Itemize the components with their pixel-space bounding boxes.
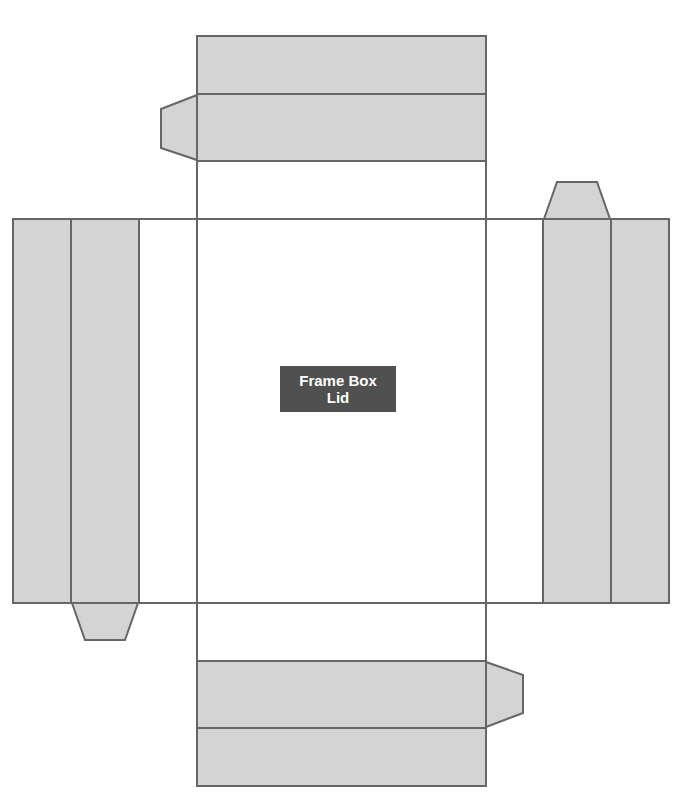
left-flap-outer [13,219,71,603]
right-flap-outer [611,219,669,603]
right-flap-tab [544,182,610,219]
bottom-flap-tab [486,662,523,727]
left-flap-tab [72,603,138,640]
top-flap-tab [161,95,197,160]
label-line-1: Frame Box [299,372,377,389]
bottom-flap-inner [197,661,486,728]
bottom-flap-outer [197,728,486,786]
top-flap-inner [197,94,486,161]
right-flap-inner [543,219,611,603]
label-line-2: Lid [327,389,350,406]
top-flap-outer [197,36,486,94]
diagram-label: Frame Box Lid [280,366,396,412]
left-flap-inner [71,219,139,603]
